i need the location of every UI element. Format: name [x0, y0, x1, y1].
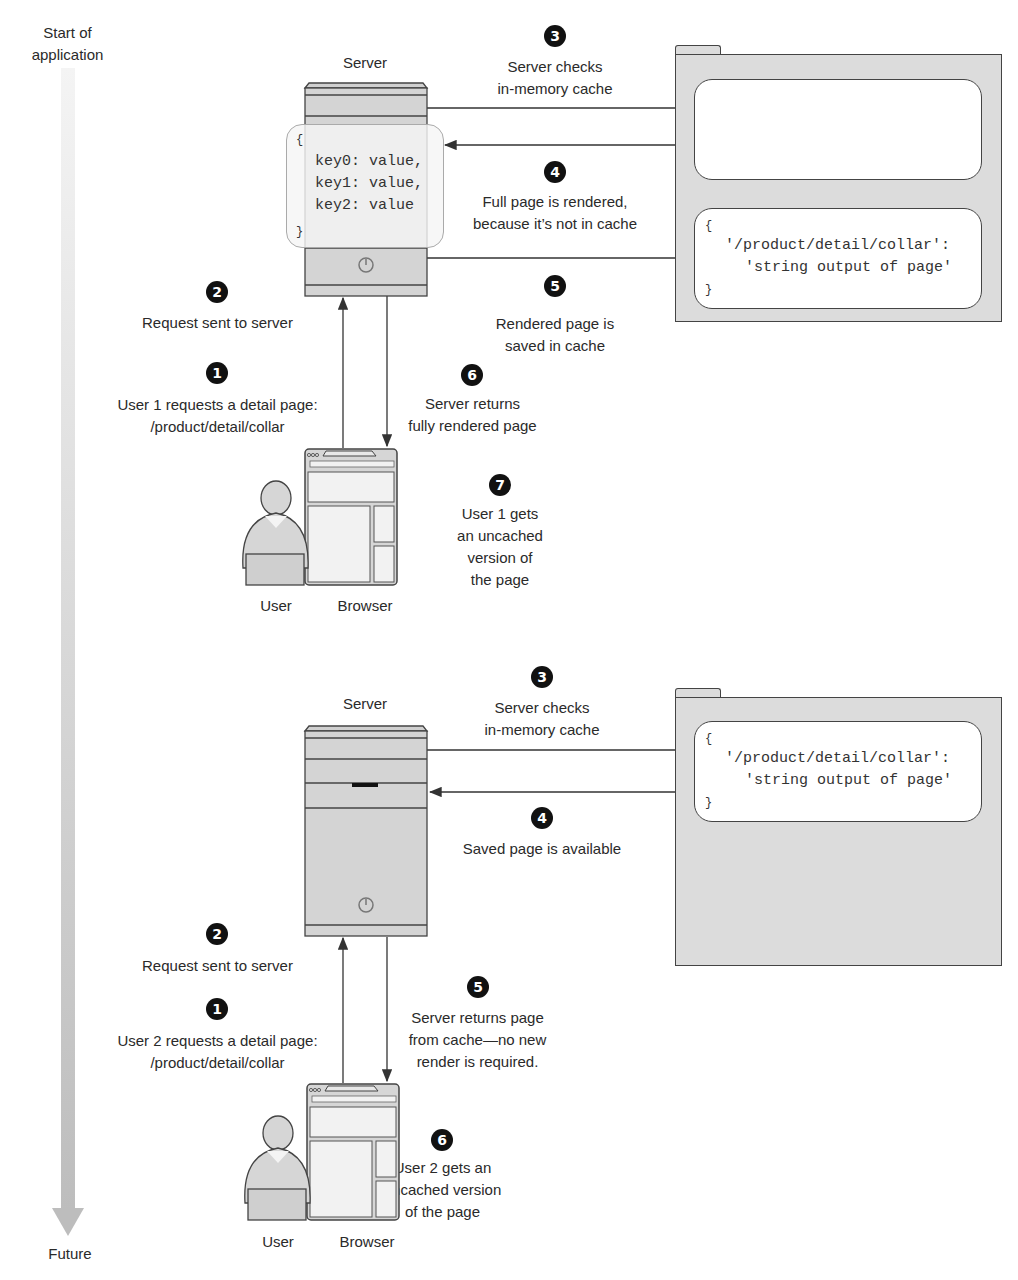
user-browser-illustration: [0, 0, 1018, 1280]
browser-label: Browser: [327, 1231, 407, 1253]
browser-window-icon: [307, 1084, 399, 1220]
user-label: User: [248, 1231, 308, 1253]
user-avatar-icon: [245, 1116, 310, 1220]
